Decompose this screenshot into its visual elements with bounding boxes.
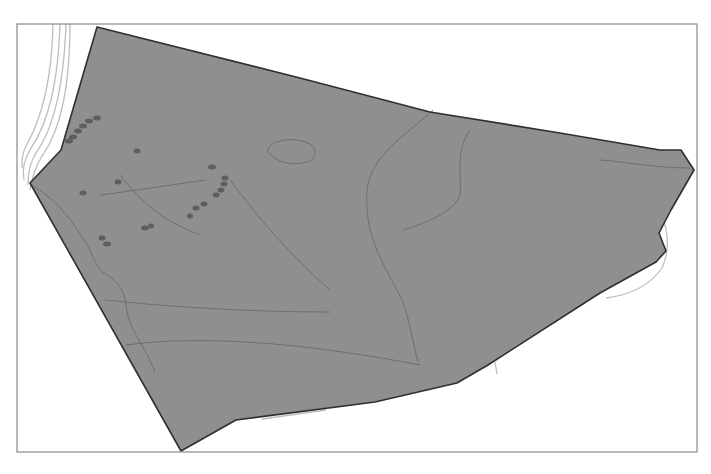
feature-point[interactable] [222, 176, 229, 181]
feature-point[interactable] [193, 206, 200, 211]
feature-point[interactable] [74, 129, 82, 134]
feature-point[interactable] [99, 236, 106, 241]
feature-point[interactable] [208, 165, 216, 170]
feature-point[interactable] [221, 182, 228, 187]
feature-point[interactable] [103, 242, 111, 247]
site-map [0, 0, 711, 474]
feature-point[interactable] [65, 139, 73, 144]
feature-point[interactable] [148, 224, 154, 229]
feature-point[interactable] [187, 214, 193, 219]
feature-point[interactable] [218, 188, 225, 193]
feature-point[interactable] [201, 202, 208, 207]
map-canvas[interactable] [0, 0, 711, 474]
feature-point[interactable] [93, 116, 101, 121]
feature-point[interactable] [79, 124, 87, 129]
feature-point[interactable] [134, 149, 141, 154]
feature-point[interactable] [80, 191, 87, 196]
feature-point[interactable] [141, 226, 149, 231]
feature-point[interactable] [115, 180, 122, 185]
feature-point[interactable] [213, 193, 220, 198]
feature-point[interactable] [85, 119, 93, 124]
